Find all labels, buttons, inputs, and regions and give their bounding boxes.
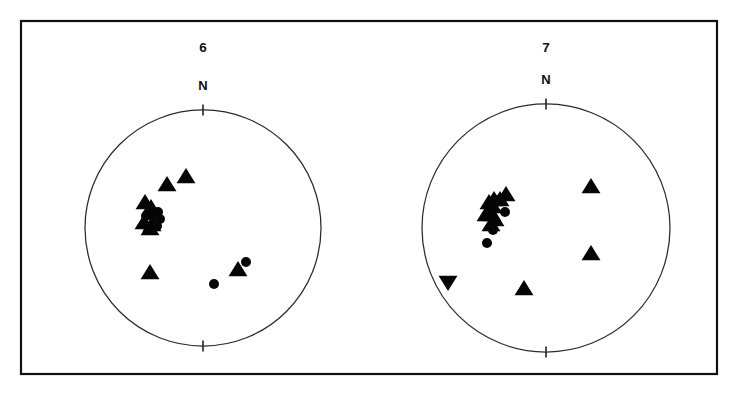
stereonet-panel-7: 7N bbox=[422, 40, 670, 358]
data-point-triangle-up bbox=[141, 264, 160, 279]
data-point-triangle-up bbox=[158, 176, 177, 191]
data-point-circle bbox=[500, 207, 510, 217]
data-point-triangle-up bbox=[515, 280, 534, 295]
panel-number-label-7: 7 bbox=[542, 40, 550, 55]
panel-number-label-6: 6 bbox=[199, 40, 207, 55]
north-label-6: N bbox=[198, 78, 207, 93]
data-point-circle bbox=[141, 211, 151, 221]
data-point-circle bbox=[482, 238, 492, 248]
figure-canvas: 6N7N bbox=[0, 0, 736, 395]
stereonet-figure: 6N7N bbox=[0, 0, 736, 395]
data-point-circle bbox=[241, 257, 251, 267]
stereonet-panels: 6N7N bbox=[85, 40, 670, 358]
data-point-triangle-up bbox=[582, 245, 601, 260]
stereonet-outline-7 bbox=[422, 104, 670, 352]
figure-frame bbox=[21, 21, 717, 374]
data-point-circle bbox=[152, 221, 162, 231]
data-point-triangle-up bbox=[177, 168, 196, 183]
data-point-circle bbox=[485, 198, 495, 208]
data-point-triangle-down bbox=[439, 276, 458, 291]
data-point-circle bbox=[489, 216, 499, 226]
stereonet-outline-6 bbox=[85, 110, 321, 346]
data-point-triangle-up bbox=[582, 178, 601, 193]
data-point-circle bbox=[488, 225, 498, 235]
north-label-7: N bbox=[541, 72, 550, 87]
stereonet-panel-6: 6N bbox=[85, 40, 321, 352]
data-point-circle bbox=[209, 279, 219, 289]
